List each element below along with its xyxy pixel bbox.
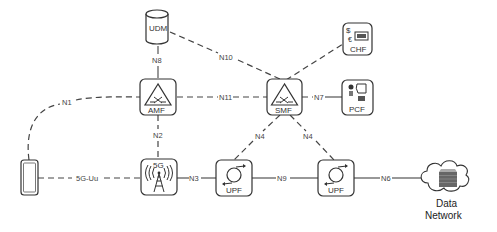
link-n7: N7: [302, 93, 342, 102]
link-label-n4a: N4: [255, 132, 265, 141]
link-label-n9: N9: [277, 174, 287, 183]
link-label-n1: N1: [62, 98, 72, 107]
link-uu: 5G-Uu: [38, 174, 141, 183]
link-label-n11: N11: [219, 93, 232, 102]
link-n6: N6: [354, 174, 424, 183]
node-udm[interactable]: UDM: [146, 10, 168, 44]
link-label-n6: N6: [381, 174, 391, 183]
node-data-network[interactable]: Data Network: [421, 161, 469, 221]
node-label-pcf: PCF: [349, 105, 365, 114]
link-n11: N11: [177, 93, 267, 102]
link-n3: N3: [177, 174, 216, 183]
node-upf1[interactable]: UPF: [216, 160, 252, 196]
node-label-upf1: UPF: [226, 186, 242, 195]
link-label-n4b: N4: [303, 132, 313, 141]
cloud-server-icon: [421, 161, 469, 191]
euro-symbol: €: [348, 36, 352, 43]
node-label-upf2: UPF: [328, 186, 344, 195]
link-n8: N8: [152, 46, 162, 78]
node-label-dn-line2: Network: [425, 210, 463, 221]
link-n2: N2: [153, 115, 163, 158]
link-label-uu: 5G-Uu: [76, 174, 98, 183]
node-label-chf: CHF: [350, 45, 367, 54]
link-n4a: N4: [234, 115, 280, 160]
link-label-n2: N2: [153, 131, 163, 140]
link-label-n8: N8: [152, 56, 162, 65]
node-upf2[interactable]: UPF: [318, 160, 354, 196]
node-amf[interactable]: AMF: [140, 79, 176, 115]
node-label-smf: SMF: [275, 106, 292, 115]
link-n4b: N4: [290, 115, 334, 160]
node-label-dn-line1: Data: [436, 198, 458, 209]
network-diagram: N8 N10 N1 N11 N7 N2 N4: [0, 0, 497, 232]
link-label-n7: N7: [314, 93, 324, 102]
node-pcf[interactable]: PCF: [342, 80, 373, 115]
node-gnb[interactable]: 5G: [141, 159, 177, 195]
link-label-n10: N10: [219, 53, 233, 62]
node-label-amf: AMF: [148, 106, 165, 115]
smartphone-icon: [21, 160, 38, 195]
node-label-gnb: 5G: [153, 161, 164, 170]
node-chf[interactable]: $ € CHF: [343, 23, 372, 55]
node-smf[interactable]: SMF: [267, 79, 302, 115]
link-n9: N9: [252, 174, 318, 183]
node-label-udm: UDM: [149, 24, 168, 33]
link-n10: N10: [170, 32, 282, 80]
node-ue[interactable]: [21, 160, 38, 195]
link-label-n3: N3: [189, 174, 199, 183]
dollar-symbol: $: [346, 26, 351, 35]
link-n40: [286, 44, 343, 80]
link-n1: N1: [28, 97, 140, 160]
